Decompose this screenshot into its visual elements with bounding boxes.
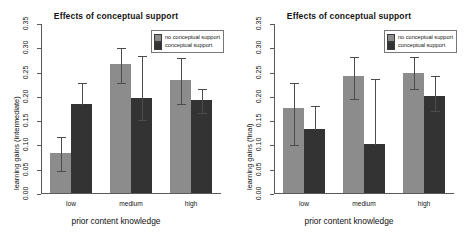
legend: no conceptual support conceptual support [151,30,224,53]
y-axis-line [274,24,275,194]
error-bar-cap [177,58,186,59]
y-tick-label: 0.25 [22,62,29,82]
error-bar-cap [138,56,147,57]
error-bar-cap [350,99,359,100]
y-tick-label: 0.20 [22,86,29,106]
bar [364,144,385,193]
error-bar-cap [57,171,66,172]
bar [71,104,92,193]
y-tick-label: 0.00 [255,184,262,204]
y-tick-label: 0.10 [255,135,262,155]
y-tick [270,24,274,25]
bar [191,100,212,193]
y-tick [37,48,41,49]
legend: no conceptual support conceptual support [384,30,457,53]
figure-root: Effects of conceptual support learning g… [0,0,465,242]
error-bar [375,79,376,145]
error-bar-cap [431,76,440,77]
legend-item-support: conceptual support [387,42,453,49]
y-tick [37,73,41,74]
error-bar-cap [431,111,440,112]
y-tick [270,194,274,195]
y-tick-label: 0.20 [255,86,262,106]
y-tick-label: 0.05 [22,159,29,179]
error-bar-cap [410,57,419,58]
error-bar [142,56,143,121]
y-tick [37,24,41,25]
legend-label-no-support: no conceptual support [398,34,453,41]
y-axis-label: learning gains (intermediate) [12,96,21,190]
chart-panel-intermediate: Effects of conceptual support learning g… [0,0,232,242]
y-tick-label: 0.30 [255,38,262,58]
y-tick-label: 0.25 [255,62,262,82]
error-bar [61,137,62,171]
error-bar [294,83,295,145]
legend-swatch-support [387,42,395,50]
y-tick [270,97,274,98]
y-tick [37,121,41,122]
error-bar [202,89,203,113]
y-tick [37,194,41,195]
x-tick-label: low [279,200,329,207]
error-bar [435,76,436,111]
legend-label-support: conceptual support [398,42,445,49]
y-axis-label: learning gains (final) [245,123,254,190]
error-bar-cap [198,89,207,90]
error-bar [181,58,182,104]
error-bar-cap [177,104,186,105]
y-tick [37,145,41,146]
error-bar [354,57,355,99]
x-axis-label: prior content knowledge [233,216,465,226]
error-bar-cap [290,83,299,84]
error-bar-cap [410,89,419,90]
bar [304,129,325,193]
x-axis-line [274,193,454,194]
error-bar [315,106,316,130]
x-tick-label: medium [106,200,156,207]
y-tick-label: 0.10 [22,135,29,155]
error-bar-cap [311,106,320,107]
x-tick-label: high [399,200,449,207]
x-axis-label: prior content knowledge [0,216,232,226]
y-tick-label: 0.05 [255,159,262,179]
x-tick-label: high [166,200,216,207]
y-axis-line [41,24,42,194]
bar [403,73,424,193]
error-bar [121,48,122,82]
error-bar-cap [350,57,359,58]
error-bar-cap [371,79,380,80]
error-bar [82,83,83,105]
error-bar-cap [290,145,299,146]
legend-swatch-no-support [154,34,162,42]
legend-label-support: conceptual support [165,42,212,49]
x-axis-line [41,193,221,194]
y-tick-label: 0.15 [255,111,262,131]
legend-swatch-no-support [387,34,395,42]
chart-title: Effects of conceptual support [233,11,465,21]
chart-title: Effects of conceptual support [0,11,232,21]
legend-label-no-support: no conceptual support [165,34,220,41]
y-tick [270,73,274,74]
x-tick-label: low [46,200,96,207]
chart-panel-final: Effects of conceptual support learning g… [233,0,465,242]
error-bar-cap [57,137,66,138]
y-tick-label: 0.15 [22,111,29,131]
y-tick [270,145,274,146]
y-tick-label: 0.30 [22,38,29,58]
y-tick [270,121,274,122]
legend-item-no-support: no conceptual support [154,34,220,41]
error-bar-cap [78,83,87,84]
y-tick-label: 0.35 [22,14,29,34]
y-tick [37,170,41,171]
error-bar [414,57,415,89]
error-bar-cap [198,113,207,114]
legend-item-no-support: no conceptual support [387,34,453,41]
y-tick-label: 0.35 [255,14,262,34]
error-bar-cap [117,83,126,84]
y-tick [270,170,274,171]
x-tick-label: medium [339,200,389,207]
y-tick-label: 0.00 [22,184,29,204]
error-bar-cap [117,48,126,49]
y-tick [270,48,274,49]
y-tick [37,97,41,98]
